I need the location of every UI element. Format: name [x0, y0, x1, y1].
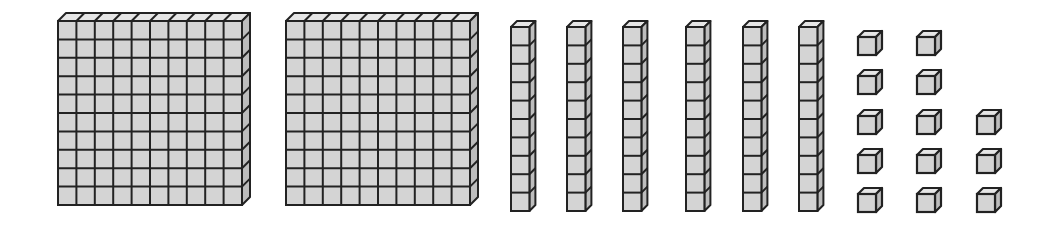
unit-cube: [858, 188, 882, 212]
unit-cube: [977, 149, 1001, 173]
ten-rod: [686, 21, 710, 211]
hundred-flat: [58, 13, 250, 205]
unit-cube: [858, 110, 882, 134]
unit-cube: [917, 31, 941, 55]
ten-rod: [623, 21, 647, 211]
ten-rod: [511, 21, 535, 211]
unit-cube: [858, 70, 882, 94]
unit-cube: [977, 110, 1001, 134]
blocks-canvas: [0, 0, 1053, 230]
ten-rod: [567, 21, 591, 211]
ones-group: [858, 31, 1001, 212]
unit-cube: [858, 149, 882, 173]
tens-group: [511, 21, 823, 211]
unit-cube: [917, 110, 941, 134]
ten-rod: [799, 21, 823, 211]
unit-cube: [917, 149, 941, 173]
unit-cube: [917, 188, 941, 212]
hundred-flat: [286, 13, 478, 205]
hundreds-group: [58, 13, 478, 205]
unit-cube: [858, 31, 882, 55]
ten-rod: [743, 21, 767, 211]
unit-cube: [917, 70, 941, 94]
unit-cube: [977, 188, 1001, 212]
